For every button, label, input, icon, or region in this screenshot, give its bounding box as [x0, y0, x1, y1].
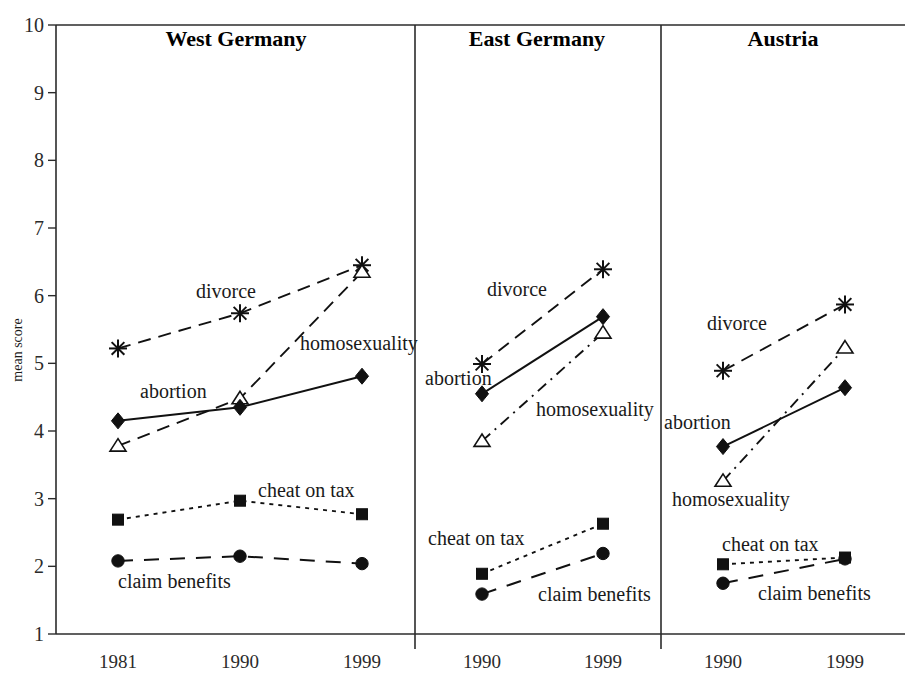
panel-title-austria: Austria [748, 26, 819, 51]
data-point-cheat-on-tax-0 [718, 559, 729, 570]
chart-figure: 12345678910 mean score 19811990199919901… [0, 0, 923, 694]
y-tick-label-7: 7 [34, 217, 44, 239]
x-tick-label-east-germany-1999: 1999 [584, 651, 622, 672]
y-tick-label-6: 6 [34, 285, 44, 307]
label-cheat-on-tax-austria: cheat on tax [722, 533, 819, 555]
x-axis: 1981199019991990199919901999 [99, 651, 864, 672]
data-point-abortion-1 [596, 309, 609, 325]
data-point-homosexuality-1 [595, 326, 611, 338]
data-point-divorce-1 [594, 260, 612, 278]
series-line-homosexuality [723, 348, 845, 481]
data-point-divorce-0 [714, 362, 732, 380]
data-point-claim-benefits-1 [839, 553, 851, 565]
y-tick-label-8: 8 [34, 149, 44, 171]
panel-title-east-germany: East Germany [469, 26, 605, 51]
data-point-abortion-1 [838, 380, 851, 396]
data-point-claim-benefits-1 [597, 547, 609, 559]
data-point-abortion-0 [111, 413, 124, 429]
y-tick-label-1: 1 [34, 623, 44, 645]
y-axis: 12345678910 [24, 14, 56, 645]
data-point-cheat-on-tax-1 [235, 495, 246, 506]
series-divorce-austria [714, 295, 854, 379]
label-homosexuality-west: homosexuality [300, 332, 418, 355]
label-claim-benefits-austria: claim benefits [758, 582, 871, 604]
y-tick-label-4: 4 [34, 420, 44, 442]
data-point-homosexuality-1 [837, 341, 853, 353]
label-abortion-austria: abortion [664, 411, 731, 433]
y-tick-label-2: 2 [34, 555, 44, 577]
label-claim-benefits-west: claim benefits [118, 570, 231, 592]
label-homosexuality-east: homosexuality [536, 398, 654, 421]
x-tick-label-west-germany-1999: 1999 [343, 651, 381, 672]
label-divorce-austria: divorce [707, 312, 767, 334]
y-tick-label-3: 3 [34, 488, 44, 510]
label-abortion-east: abortion [425, 367, 492, 389]
data-point-claim-benefits-2 [356, 557, 368, 569]
x-tick-label-west-germany-1990: 1990 [221, 651, 259, 672]
data-point-abortion-0 [716, 439, 729, 455]
chart-canvas: 12345678910 mean score 19811990199919901… [0, 0, 923, 694]
data-point-divorce-1 [231, 304, 249, 322]
label-abortion-west: abortion [140, 380, 207, 402]
data-point-claim-benefits-0 [112, 555, 124, 567]
series-claim-benefits-west-germany [112, 550, 368, 570]
label-claim-benefits-east: claim benefits [538, 583, 651, 605]
y-tick-label-9: 9 [34, 82, 44, 104]
y-tick-label-10: 10 [24, 14, 44, 36]
label-divorce-east: divorce [487, 278, 547, 300]
panel-title-west-germany: West Germany [165, 26, 306, 51]
data-point-cheat-on-tax-0 [113, 514, 124, 525]
data-point-claim-benefits-1 [234, 550, 246, 562]
data-point-divorce-0 [109, 339, 127, 357]
label-cheat-on-tax-east: cheat on tax [428, 527, 525, 549]
data-point-abortion-2 [355, 368, 368, 384]
data-point-claim-benefits-0 [476, 588, 488, 600]
y-tick-label-5: 5 [34, 352, 44, 374]
x-tick-label-west-germany-1981: 1981 [99, 651, 137, 672]
label-homosexuality-austria: homosexuality [672, 488, 790, 511]
data-point-divorce-1 [836, 295, 854, 313]
series-abortion-austria [716, 380, 851, 455]
x-tick-label-east-germany-1990: 1990 [463, 651, 501, 672]
series-line-abortion [482, 317, 603, 394]
data-point-homosexuality-0 [110, 439, 126, 451]
series-homosexuality-austria [715, 341, 853, 487]
data-point-claim-benefits-0 [717, 577, 729, 589]
data-point-cheat-on-tax-0 [477, 568, 488, 579]
label-divorce-west: divorce [196, 280, 256, 302]
data-point-cheat-on-tax-1 [598, 518, 609, 529]
label-cheat-on-tax-west: cheat on tax [258, 479, 355, 501]
series-line-abortion [723, 388, 845, 447]
x-tick-label-austria-1990: 1990 [704, 651, 742, 672]
x-tick-label-austria-1999: 1999 [826, 651, 864, 672]
data-point-cheat-on-tax-2 [357, 509, 368, 520]
y-axis-title: mean score [10, 318, 25, 381]
axes-frame [56, 25, 905, 649]
